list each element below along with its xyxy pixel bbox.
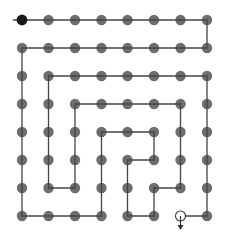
grid-dots [17,15,212,221]
end-marker [176,211,186,230]
start-marker [17,15,28,26]
spiral-path-diagram [0,0,230,245]
start-dot [17,15,28,26]
diagram-svg [0,0,230,245]
down-arrow-icon [178,225,184,230]
